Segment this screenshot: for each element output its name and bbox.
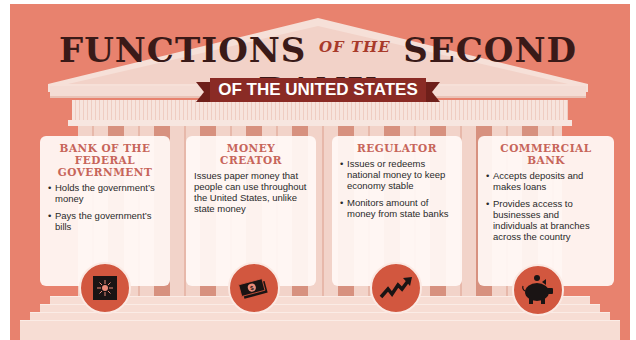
card-heading: MONEY CREATOR [194, 142, 308, 166]
card-heading: BANK OF THE FEDERAL GOVERNMENT [48, 142, 162, 178]
card-bullet: Issues or redeems national money to keep… [340, 158, 454, 191]
subtitle-banner: OF THE UNITED STATES [210, 78, 426, 102]
money-stack-icon: $ [228, 262, 280, 314]
card-heading: COMMERCIAL BANK [486, 142, 606, 166]
card-commercial-bank: COMMERCIAL BANK Accepts deposits and mak… [478, 136, 614, 286]
card-heading: REGULATOR [340, 142, 454, 154]
card-bullet: Provides access to businesses and indivi… [486, 198, 606, 242]
title-connector: OF THE [319, 38, 391, 56]
trend-arrow-icon [370, 262, 422, 314]
card-bullet: Accepts deposits and makes loans [486, 170, 606, 192]
card-bullet: Holds the government’s money [48, 182, 162, 204]
title-part1: FUNCTIONS [59, 30, 306, 70]
card-text: Issues paper money that people can use t… [194, 170, 308, 214]
card-bullet: Monitors amount of money from state bank… [340, 197, 454, 219]
vault-icon [79, 262, 131, 314]
piggy-bank-icon [512, 264, 564, 316]
card-bullet: Pays the government’s bills [48, 210, 162, 232]
